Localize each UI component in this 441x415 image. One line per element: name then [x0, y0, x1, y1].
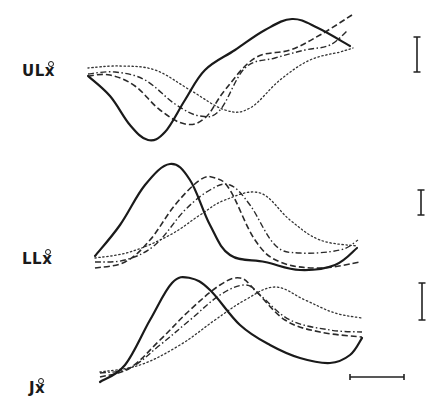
plot-area [0, 0, 441, 415]
panel-ll [95, 164, 425, 270]
amplitude-scale-bar-ul [414, 37, 421, 72]
trace-ll-solid [95, 164, 357, 270]
trace-j-dash-dot [100, 285, 362, 373]
panel-ul [88, 15, 421, 140]
amplitude-scale-bar-j [419, 283, 426, 320]
trace-ul-dash-dot [88, 30, 348, 117]
amplitude-scale-bar-ll [418, 190, 425, 215]
panel-j [100, 277, 426, 382]
velocity-figure: ULx LLx Jx [0, 0, 441, 415]
trace-ul-dashed [88, 15, 352, 125]
time-scale-bar [350, 374, 404, 380]
trace-ul-solid [88, 19, 350, 140]
